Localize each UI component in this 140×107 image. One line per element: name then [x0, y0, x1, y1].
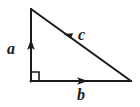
triangle-diagram-canvas [0, 0, 140, 107]
hypotenuse-line [31, 9, 131, 81]
vector-c-label: c [78, 27, 85, 43]
right-angle-icon [31, 72, 39, 81]
vector-b-label: b [77, 87, 85, 103]
vector-triangle-figure: a b c [0, 0, 140, 107]
vector-a-label: a [7, 41, 15, 57]
